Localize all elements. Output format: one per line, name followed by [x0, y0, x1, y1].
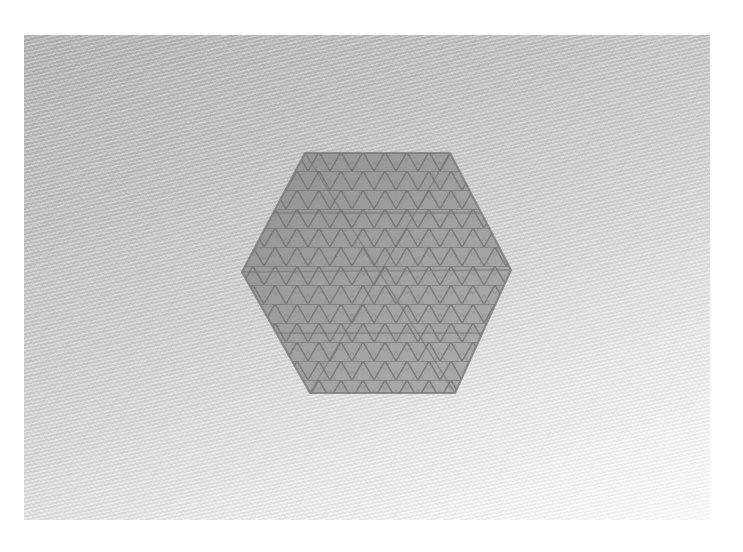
hexagonal-mesh	[0, 0, 743, 552]
